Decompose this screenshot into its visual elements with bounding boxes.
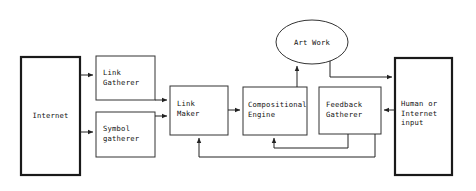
node-label-symbol-gatherer: Symbol gatherer [103,124,155,143]
diagram-canvas: Internet Link Gatherer Symbol gatherer L… [0,0,476,191]
edge-art-work-to-human-input [330,61,392,77]
node-label-link-maker: Link Maker [177,99,227,118]
edge-human-input-to-link-maker [199,134,375,157]
node-label-compositional-engine: Compositional Engine [248,100,308,119]
node-label-art-work: Art Work [276,38,348,48]
node-label-internet: Internet [21,111,80,121]
edge-feedback-gatherer-to-compositional-engine [274,134,348,148]
diagram-connectors [0,0,476,191]
node-label-human-or-internet-input: Human or Internet input [401,99,453,128]
node-label-link-gatherer: Link Gatherer [103,68,155,87]
node-label-feedback-gatherer: Feedback Gatherer [326,100,382,119]
